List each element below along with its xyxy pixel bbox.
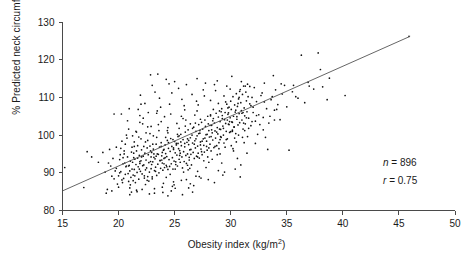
data-point xyxy=(137,166,139,168)
data-point xyxy=(274,119,276,121)
data-point xyxy=(165,164,167,166)
data-point xyxy=(173,184,175,186)
data-point xyxy=(152,161,154,163)
data-point xyxy=(113,113,115,115)
data-point xyxy=(177,143,179,145)
data-point xyxy=(160,167,162,169)
data-point xyxy=(219,110,221,112)
data-point xyxy=(182,139,184,141)
data-point xyxy=(170,190,172,192)
data-point xyxy=(150,156,152,158)
plot-canvas: 8090100110120130 1520253035404550 xyxy=(0,0,473,262)
data-point xyxy=(190,153,192,155)
data-point xyxy=(195,147,197,149)
data-point xyxy=(190,149,192,151)
data-point xyxy=(155,166,157,168)
data-point xyxy=(197,145,199,147)
data-point xyxy=(139,121,141,123)
data-point xyxy=(317,52,319,54)
data-point xyxy=(184,143,186,145)
x-tick-label: 15 xyxy=(57,218,69,229)
data-point xyxy=(262,129,264,131)
y-axis-ticks: 8090100110120130 xyxy=(38,17,63,217)
data-point xyxy=(147,176,149,178)
data-point xyxy=(188,144,190,146)
data-point xyxy=(212,118,214,120)
data-point xyxy=(293,84,295,86)
x-tick-label: 30 xyxy=(225,218,237,229)
data-point xyxy=(167,127,169,129)
data-point xyxy=(136,150,138,152)
data-point xyxy=(126,137,128,139)
data-point xyxy=(214,182,216,184)
data-point xyxy=(131,151,133,153)
data-point xyxy=(165,153,167,155)
data-point xyxy=(232,148,234,150)
data-point xyxy=(206,146,208,148)
data-point xyxy=(244,123,246,125)
data-point xyxy=(146,179,148,181)
data-point xyxy=(308,85,310,87)
data-point xyxy=(228,112,230,114)
data-point xyxy=(187,153,189,155)
data-point xyxy=(238,98,240,100)
data-point xyxy=(210,114,212,116)
data-point xyxy=(192,152,194,154)
x-tick-label: 40 xyxy=(337,218,349,229)
correlation-symbol: r xyxy=(383,175,386,186)
data-point xyxy=(189,167,191,169)
data-point xyxy=(262,117,264,119)
data-point xyxy=(284,84,286,86)
data-point xyxy=(141,189,143,191)
data-point xyxy=(169,166,171,168)
data-point xyxy=(251,121,253,123)
data-point xyxy=(218,148,220,150)
data-point xyxy=(167,140,169,142)
data-point xyxy=(244,85,246,87)
data-point xyxy=(207,115,209,117)
data-point xyxy=(137,109,139,111)
data-point xyxy=(204,95,206,97)
data-point xyxy=(274,109,276,111)
data-point xyxy=(159,160,161,162)
data-point xyxy=(192,127,194,129)
data-point xyxy=(230,145,232,147)
data-point xyxy=(322,86,324,88)
data-point xyxy=(168,147,170,149)
data-point xyxy=(107,189,109,191)
data-point xyxy=(184,109,186,111)
data-point xyxy=(219,139,221,141)
data-point xyxy=(132,135,134,137)
data-point xyxy=(206,134,208,136)
data-point xyxy=(176,123,178,125)
data-point xyxy=(136,189,138,191)
data-point xyxy=(133,146,135,148)
data-point xyxy=(257,134,259,136)
data-point xyxy=(150,161,152,163)
data-point xyxy=(86,151,88,153)
data-point xyxy=(150,74,152,76)
data-point xyxy=(259,124,261,126)
data-point xyxy=(187,164,189,166)
data-point xyxy=(266,108,268,110)
data-point xyxy=(261,92,263,94)
data-point xyxy=(141,173,143,175)
data-point xyxy=(142,117,144,119)
data-point xyxy=(280,83,282,85)
correlation-value: = 0.75 xyxy=(389,175,417,186)
data-point xyxy=(123,153,125,155)
data-point xyxy=(222,125,224,127)
data-point xyxy=(179,152,181,154)
data-point xyxy=(249,103,251,105)
data-point xyxy=(226,103,228,105)
data-point xyxy=(241,119,243,121)
data-point xyxy=(186,163,188,165)
data-point xyxy=(114,170,116,172)
data-point xyxy=(196,78,198,80)
data-point xyxy=(177,165,179,167)
data-point xyxy=(128,181,130,183)
data-point xyxy=(189,123,191,125)
data-point xyxy=(198,133,200,135)
data-point xyxy=(174,81,176,83)
data-point xyxy=(154,192,156,194)
